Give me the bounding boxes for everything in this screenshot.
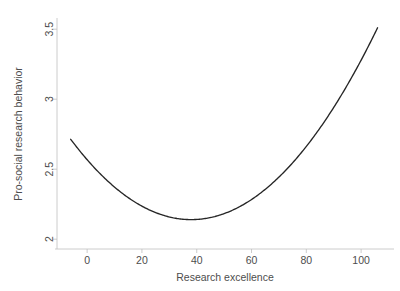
y-tick-label: 3: [43, 96, 55, 102]
y-axis-ticks: 22.533.5: [43, 22, 57, 242]
y-tick-label: 2.5: [43, 162, 55, 177]
chart-figure: 22.533.5 020406080100 Research excellenc…: [0, 0, 400, 291]
x-tick-label: 80: [300, 254, 312, 266]
x-tick-label: 0: [84, 254, 90, 266]
x-tick-label: 60: [246, 254, 258, 266]
x-tick-label: 100: [352, 254, 370, 266]
x-axis-title: Research excellence: [176, 271, 274, 283]
y-axis-title: Pro-social research behavior: [12, 67, 24, 201]
x-tick-label: 20: [136, 254, 148, 266]
x-tick-label: 40: [191, 254, 203, 266]
chart-canvas: 22.533.5 020406080100 Research excellenc…: [0, 0, 400, 291]
x-axis-ticks: 020406080100: [84, 249, 370, 266]
data-series-curve: [71, 28, 378, 220]
y-tick-label: 2: [43, 236, 55, 242]
y-tick-label: 3.5: [43, 22, 55, 37]
